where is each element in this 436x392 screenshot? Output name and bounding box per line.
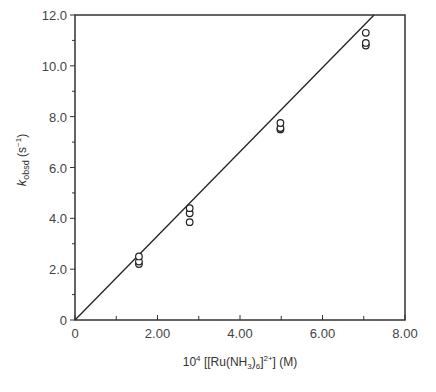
y-tick-label: 4.0 (49, 211, 67, 226)
x-tick-label: 8.00 (392, 326, 417, 341)
y-tick-label: 0 (60, 313, 67, 328)
y-axis-title: kobsd (s−1) (14, 134, 31, 187)
x-tick-label: 4.00 (227, 326, 252, 341)
x-tick-label: 2.00 (145, 326, 170, 341)
axis-ticks: 02.004.006.008.0002.04.06.08.010.012.0 (42, 8, 418, 341)
x-tick-label: 6.00 (310, 326, 335, 341)
data-point (186, 219, 193, 226)
x-tick-label: 0 (71, 326, 78, 341)
y-tick-label: 6.0 (49, 161, 67, 176)
data-points (136, 29, 369, 267)
data-point (363, 40, 370, 47)
data-point (363, 29, 370, 36)
fit-line (75, 15, 374, 320)
y-tick-label: 12.0 (42, 8, 67, 23)
x-axis-title: 104 [[Ru(NH3)6]2+] (M) (183, 354, 298, 371)
plot-frame (75, 15, 405, 320)
y-tick-label: 8.0 (49, 110, 67, 125)
y-tick-label: 2.0 (49, 262, 67, 277)
data-point (186, 205, 193, 212)
kinetics-scatter-chart: 02.004.006.008.0002.04.06.08.010.012.0 k… (0, 0, 436, 392)
y-tick-label: 10.0 (42, 59, 67, 74)
data-point (277, 120, 284, 127)
data-point (136, 253, 143, 260)
